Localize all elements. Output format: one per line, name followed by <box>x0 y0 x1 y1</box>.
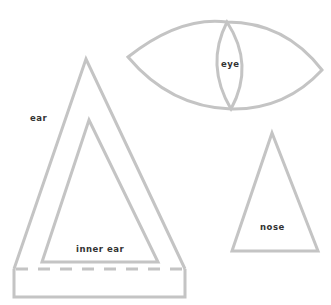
eye-label: eye <box>221 59 240 69</box>
ear-label: ear <box>30 113 47 123</box>
inner-ear-shape <box>42 120 158 262</box>
inner-ear-label: inner ear <box>76 244 124 254</box>
nose-label: nose <box>260 222 285 232</box>
nose-shape <box>232 133 318 251</box>
ear-base-band <box>14 269 185 297</box>
ear-outer-shape <box>14 59 185 269</box>
diagram-canvas <box>0 0 331 305</box>
